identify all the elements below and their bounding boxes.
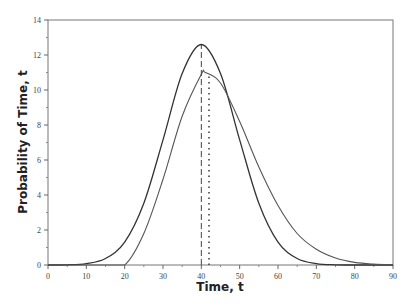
x-tick-label: 60 — [274, 272, 282, 281]
series-line-symmetric — [48, 45, 393, 266]
x-tick-label: 20 — [121, 272, 129, 281]
annotations — [201, 45, 209, 266]
y-tick-label: 8 — [37, 121, 41, 130]
y-tick-label: 2 — [37, 226, 41, 235]
x-axis-title: Time, t — [196, 280, 244, 294]
y-tick-label: 10 — [33, 86, 41, 95]
x-tick-label: 70 — [312, 272, 320, 281]
y-tick-label: 12 — [33, 51, 41, 60]
y-tick-label: 14 — [33, 16, 41, 25]
x-tick-label: 10 — [82, 272, 90, 281]
y-axis-title: Probability of Time, t — [16, 70, 30, 214]
series-line-skewed — [48, 70, 393, 265]
x-tick-label: 80 — [351, 272, 359, 281]
series-group — [48, 45, 393, 266]
plot-frame — [48, 20, 393, 265]
y-tick-label: 4 — [37, 191, 41, 200]
x-tick-label: 30 — [159, 272, 167, 281]
y-tick-label: 6 — [37, 156, 41, 165]
chart: 010203040506070809002468101214 Time, t P… — [0, 0, 411, 308]
axis-ticks: 010203040506070809002468101214 — [33, 16, 397, 281]
plot-border — [48, 20, 393, 265]
x-tick-label: 90 — [389, 272, 397, 281]
x-tick-label: 0 — [46, 272, 50, 281]
y-tick-label: 0 — [37, 261, 41, 270]
